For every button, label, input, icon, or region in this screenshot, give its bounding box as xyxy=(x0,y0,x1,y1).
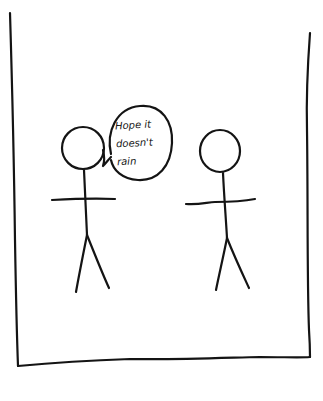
speech-line-3: rain xyxy=(117,151,170,172)
left-figure-body xyxy=(84,170,87,235)
left-figure-head xyxy=(62,127,104,169)
left-stick-figure xyxy=(52,127,115,292)
panel-bottom-border xyxy=(18,357,310,366)
comic-panel xyxy=(0,0,323,401)
speech-bubble-text: Hope it doesn't rain xyxy=(115,115,170,172)
right-figure-arms xyxy=(186,199,255,204)
panel-left-border xyxy=(10,13,18,366)
right-figure-left-leg xyxy=(216,238,227,290)
right-figure-head xyxy=(200,130,240,172)
panel-right-border xyxy=(307,33,310,357)
left-figure-arms xyxy=(52,199,115,200)
left-figure-right-leg xyxy=(87,235,109,288)
right-stick-figure xyxy=(186,130,255,290)
left-figure-left-leg xyxy=(76,235,87,292)
right-figure-right-leg xyxy=(227,238,249,288)
right-figure-body xyxy=(223,173,227,238)
